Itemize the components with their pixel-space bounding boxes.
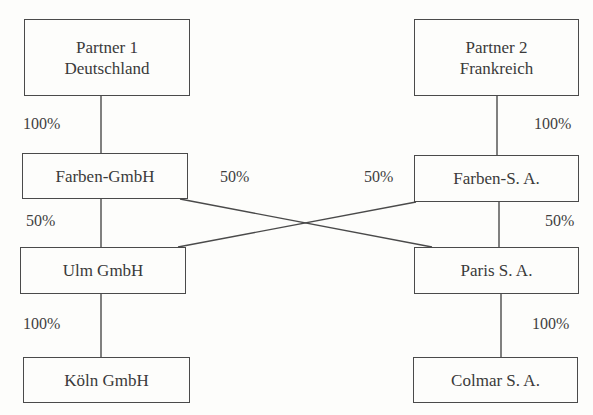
paris-sa-box: Paris S. A. bbox=[414, 247, 579, 294]
pct-farben-gmbh-paris: 50% bbox=[220, 168, 249, 186]
pct-partner1-farben-gmbh: 100% bbox=[23, 115, 60, 133]
pct-paris-colmar: 100% bbox=[532, 315, 569, 333]
paris-sa-label: Paris S. A. bbox=[461, 260, 533, 281]
pct-ulm-koeln: 100% bbox=[23, 315, 60, 333]
koeln-gmbh-box: Köln GmbH bbox=[23, 357, 190, 403]
farben-sa-box: Farben-S. A. bbox=[414, 155, 579, 202]
ulm-gmbh-label: Ulm GmbH bbox=[63, 260, 144, 281]
koeln-gmbh-label: Köln GmbH bbox=[64, 370, 149, 391]
colmar-sa-box: Colmar S. A. bbox=[413, 357, 578, 403]
farben-gmbh-label: Farben-GmbH bbox=[55, 166, 154, 187]
partner-1-box: Partner 1 Deutschland bbox=[24, 19, 190, 96]
partner-2-box: Partner 2 Frankreich bbox=[414, 19, 579, 96]
partner-1-country: Deutschland bbox=[65, 58, 150, 79]
ulm-gmbh-box: Ulm GmbH bbox=[20, 247, 186, 294]
colmar-sa-label: Colmar S. A. bbox=[451, 370, 540, 391]
partner-2-label: Partner 2 bbox=[466, 37, 528, 58]
farben-sa-label: Farben-S. A. bbox=[453, 168, 539, 189]
farben-gmbh-box: Farben-GmbH bbox=[22, 153, 188, 199]
partner-2-country: Frankreich bbox=[460, 58, 534, 79]
partner-1-label: Partner 1 bbox=[76, 37, 138, 58]
pct-farben-sa-paris: 50% bbox=[545, 212, 574, 230]
pct-farben-sa-ulm: 50% bbox=[364, 168, 393, 186]
pct-farben-gmbh-ulm: 50% bbox=[26, 212, 55, 230]
pct-partner2-farben-sa: 100% bbox=[534, 115, 571, 133]
